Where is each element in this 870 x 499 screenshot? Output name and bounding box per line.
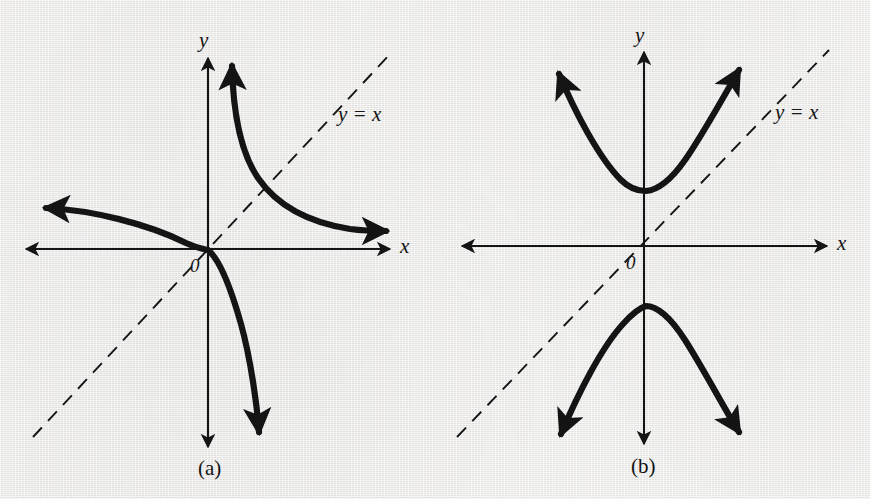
curve-branch-a-2 [46,208,259,432]
origin-label-b: 0 [626,253,636,272]
panel-a-plot [0,0,435,499]
asymptote-label-a: y = x [338,104,381,125]
panel-caption-b: (b) [631,456,656,477]
panel-caption-a: (a) [198,458,221,479]
panel-b-plot [435,0,870,499]
panel-b: x y 0 y = x (b) [435,0,870,499]
y-axis-label-b: y [635,25,644,46]
x-axis-label-b: x [837,233,846,254]
figure-root: x y 0 y = x (a) [0,0,870,499]
x-axis-label-a: x [400,236,409,257]
asymptote-label-b: y = x [775,102,818,123]
curve-branch-b-upper [559,70,739,191]
panel-a: x y 0 y = x (a) [0,0,435,499]
origin-label-a: 0 [190,256,200,275]
curve-branch-b-lower [561,306,739,434]
curve-branch-a-1 [232,66,386,231]
y-axis-label-a: y [199,30,208,51]
